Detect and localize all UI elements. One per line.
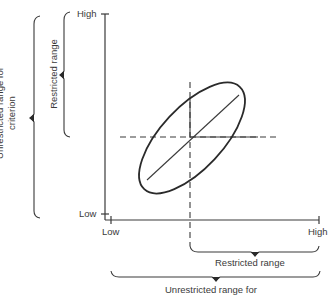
left-unrestricted-line1: Unrestricted range for [0, 53, 6, 173]
x-axis-low-label: Low [102, 227, 119, 237]
left-unrestricted-line2: criterion [6, 53, 18, 173]
bottom-unrestricted-range-label: Unrestricted range for [165, 285, 257, 295]
left-outer-brace-arrow [29, 114, 34, 122]
y-axis-high-label: High [77, 9, 97, 19]
x-axis-high-label: High [308, 227, 328, 237]
bottom-outer-brace-arrow [212, 277, 220, 282]
bottom-restricted-range-label: Restricted range [215, 258, 285, 268]
y-axis-low-label: Low [79, 209, 96, 219]
left-restricted-range-label: Restricted range [48, 34, 60, 114]
left-unrestricted-range-label: Unrestricted range for criterion [0, 53, 20, 173]
